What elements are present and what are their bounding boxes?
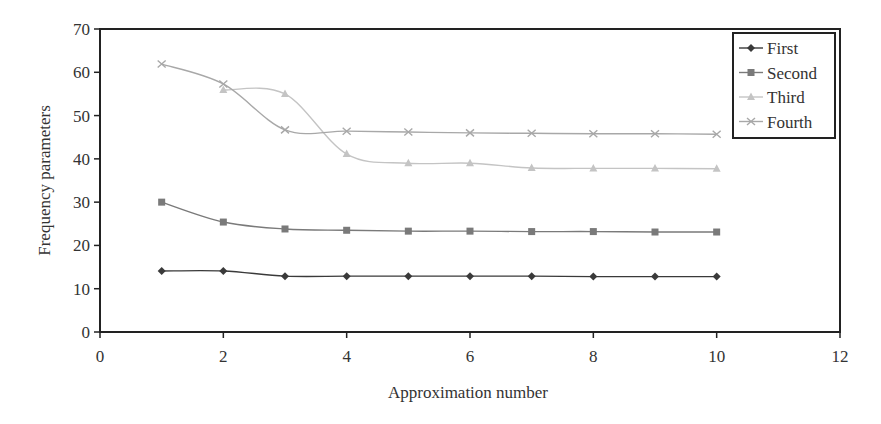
square-marker-icon <box>467 228 474 235</box>
plot-border <box>100 29 840 332</box>
plot-area <box>100 29 840 332</box>
series-fourth <box>158 61 721 138</box>
square-marker-icon <box>528 228 535 235</box>
y-tick-label: 10 <box>73 280 90 299</box>
x-axis-title: Approximation number <box>388 383 548 402</box>
diamond-marker-icon <box>281 272 289 280</box>
diamond-marker-icon <box>343 272 351 280</box>
triangle-marker-icon <box>589 164 597 172</box>
series-line <box>162 64 717 134</box>
x-marker-icon <box>281 126 289 133</box>
x-marker-icon <box>158 61 166 68</box>
series-first <box>158 267 721 281</box>
square-marker-icon <box>220 219 227 226</box>
x-tick-label: 0 <box>96 347 105 366</box>
x-axis: 024681012 <box>96 332 849 366</box>
square-marker-icon <box>343 227 350 234</box>
line-chart: 010203040506070 024681012 Approximation … <box>0 0 881 424</box>
legend-label: First <box>767 39 798 58</box>
diamond-marker-icon <box>651 273 659 281</box>
square-marker-icon <box>748 69 755 76</box>
chart-canvas: 010203040506070 024681012 Approximation … <box>0 0 881 424</box>
square-marker-icon <box>713 229 720 236</box>
triangle-marker-icon <box>651 164 659 172</box>
diamond-marker-icon <box>528 272 536 280</box>
diamond-marker-icon <box>466 272 474 280</box>
series-second <box>158 199 720 236</box>
y-tick-label: 70 <box>73 20 90 39</box>
x-tick-label: 10 <box>708 347 725 366</box>
square-marker-icon <box>405 228 412 235</box>
square-marker-icon <box>158 199 165 206</box>
series-line <box>223 88 716 169</box>
square-marker-icon <box>590 228 597 235</box>
x-tick-label: 2 <box>219 347 228 366</box>
y-axis: 010203040506070 <box>73 20 100 342</box>
legend-label: Fourth <box>767 113 813 132</box>
y-axis-title: Frequency parameters <box>35 105 54 256</box>
legend: FirstSecondThirdFourth <box>733 33 835 138</box>
x-tick-label: 6 <box>466 347 475 366</box>
series-line <box>162 271 717 277</box>
series-line <box>162 202 717 232</box>
y-tick-label: 20 <box>73 236 90 255</box>
diamond-marker-icon <box>158 267 166 275</box>
diamond-marker-icon <box>404 272 412 280</box>
square-marker-icon <box>282 225 289 232</box>
legend-label: Third <box>767 88 805 107</box>
y-tick-label: 30 <box>73 193 90 212</box>
diamond-marker-icon <box>219 267 227 275</box>
y-tick-label: 0 <box>82 323 91 342</box>
square-marker-icon <box>652 229 659 236</box>
x-tick-label: 12 <box>832 347 849 366</box>
triangle-marker-icon <box>713 164 721 172</box>
triangle-marker-icon <box>343 150 351 158</box>
x-tick-label: 8 <box>589 347 598 366</box>
diamond-marker-icon <box>589 273 597 281</box>
diamond-marker-icon <box>713 273 721 281</box>
series-layer <box>158 61 721 281</box>
x-tick-label: 4 <box>342 347 351 366</box>
legend-label: Second <box>767 64 818 83</box>
series-third <box>219 86 720 172</box>
y-tick-label: 50 <box>73 107 90 126</box>
y-tick-label: 40 <box>73 150 90 169</box>
y-tick-label: 60 <box>73 63 90 82</box>
